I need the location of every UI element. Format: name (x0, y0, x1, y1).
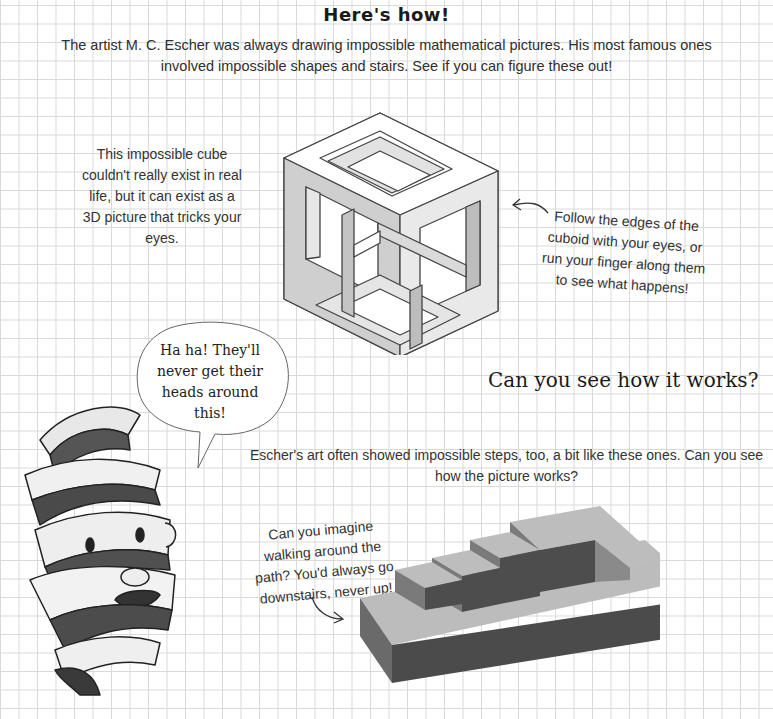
intro-paragraph: The artist M. C. Escher was always drawi… (60, 35, 713, 77)
impossible-stairs-illustration (340, 500, 660, 700)
page-title: Here's how! (0, 4, 773, 25)
ribbon-face-character (10, 395, 185, 700)
section-heading: Can you see how it works? (488, 368, 758, 392)
cube-note: This impossible cube couldn't really exi… (82, 144, 242, 249)
impossible-cube-illustration (270, 105, 520, 355)
escher-steps-paragraph: Escher's art often showed impossible ste… (240, 445, 773, 487)
follow-note: Follow the edges of the cuboid with your… (534, 205, 714, 301)
